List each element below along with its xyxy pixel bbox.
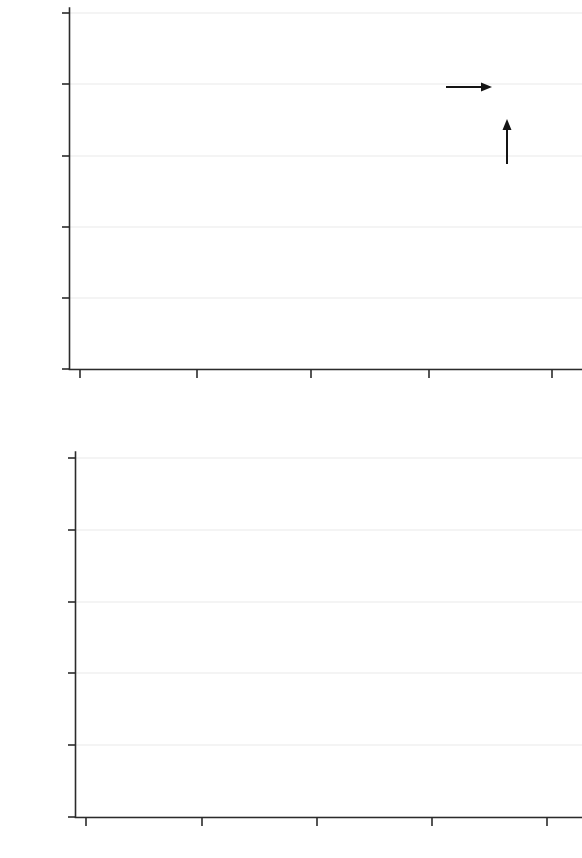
chart-panel-top [0,0,582,430]
top-gridlines [70,13,582,369]
top-chart-svg [0,0,582,430]
top-y-ticks [62,13,70,369]
chart-panel-bottom [0,430,582,858]
top-x-ticks [80,370,552,379]
annotation-arrow-all-primaries [503,119,512,164]
figure-container [0,0,582,858]
bottom-gridlines [76,458,582,817]
bottom-chart-svg [0,430,582,858]
bottom-y-ticks [68,458,76,817]
bottom-x-ticks [86,818,547,827]
